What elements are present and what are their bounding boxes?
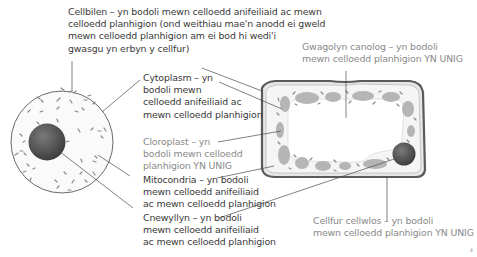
label-cnewyllyn: Cnewyllyn – yn bodoli mewn celloedd anif… [143, 212, 276, 249]
label-cloroplast: Cloroplast – yn bodoli mewn celloedd pla… [143, 136, 243, 173]
page-number: 4 [470, 247, 473, 253]
label-cellfur-cellwlos: Cellfur cellwlos – yn bodoli mewn celloe… [313, 215, 474, 239]
plant-nucleus [393, 143, 416, 166]
animal-nucleus [29, 124, 66, 161]
plant-cell [262, 81, 425, 177]
label-mitocondria: Mitocondria – yn bodoli mewn celloedd an… [143, 174, 276, 211]
animal-cell [11, 88, 113, 193]
label-cytoplasm: Cytoplasm – yn bodoli mewn celloedd anif… [143, 72, 262, 121]
label-cellbilen: Cellbilen – yn bodoli mewn celloedd anif… [68, 6, 325, 55]
label-gwagolyn-canolog: Gwagolyn canolog – yn bodoli mewn celloe… [302, 41, 463, 65]
